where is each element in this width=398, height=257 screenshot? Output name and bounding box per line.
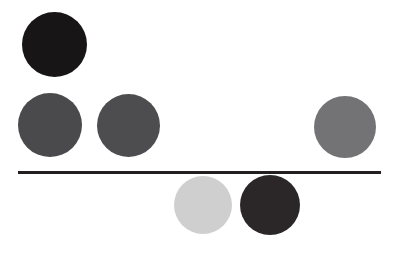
circle-right-medium-gray	[314, 96, 376, 158]
circle-mid-left-dark-gray	[18, 93, 82, 157]
figure-canvas: Grayscale circles above and below a hori…	[0, 0, 398, 257]
circle-top-left-near-black	[22, 12, 87, 77]
circle-mid-center-dark-gray	[97, 94, 160, 157]
circle-bottom-right-near-black	[240, 175, 300, 235]
circle-bottom-left-light-gray	[174, 176, 232, 234]
horizontal-rule	[18, 171, 381, 174]
